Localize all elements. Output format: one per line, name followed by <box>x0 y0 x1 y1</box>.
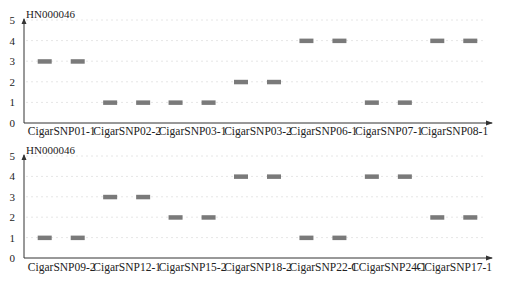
x-category-label: CCigarSNP24-1 <box>351 261 427 274</box>
data-bar <box>103 100 117 105</box>
data-bar <box>299 39 313 44</box>
data-bar <box>71 236 85 241</box>
chart-panel-top: 012345HN000046CigarSNP01-1CigarSNP02-2Ci… <box>0 0 508 140</box>
data-bar <box>430 215 444 220</box>
data-bar <box>169 215 183 220</box>
y-tick-label: 3 <box>10 55 16 67</box>
y-tick-label: 1 <box>10 232 16 244</box>
y-tick-label: 2 <box>10 76 16 88</box>
data-bar <box>38 236 52 241</box>
data-bar <box>398 174 412 179</box>
data-bar <box>365 100 379 105</box>
y-tick-label: 5 <box>10 150 16 162</box>
data-bar <box>169 100 183 105</box>
data-bar <box>430 39 444 44</box>
data-bar <box>463 215 477 220</box>
chart-panel-bottom: 012345HN000046CigarSNP09-2CigarSNP12-1Ci… <box>0 135 508 286</box>
y-tick-label: 0 <box>10 252 16 264</box>
data-bar <box>202 215 216 220</box>
data-bar <box>234 174 248 179</box>
x-category-label: CigarSNP15-2 <box>159 261 227 274</box>
x-category-label: CigarSNP09-2 <box>28 261 96 274</box>
data-bar <box>398 100 412 105</box>
data-bar <box>299 236 313 241</box>
x-category-label: CigarSNP18-2 <box>224 261 292 274</box>
data-bar <box>332 236 346 241</box>
data-bar <box>136 100 150 105</box>
data-bar <box>365 174 379 179</box>
x-category-label: CigarSNP12-1 <box>93 261 161 274</box>
data-bar <box>136 195 150 200</box>
chart-title: HN000046 <box>26 144 75 156</box>
data-bar <box>332 39 346 44</box>
data-bar <box>267 80 281 85</box>
data-bar <box>234 80 248 85</box>
y-tick-label: 4 <box>10 170 16 182</box>
y-tick-label: 1 <box>10 96 16 108</box>
data-bar <box>71 59 85 64</box>
y-tick-label: 4 <box>10 35 16 47</box>
data-bar <box>103 195 117 200</box>
chart-bottom: 012345HN000046CigarSNP09-2CigarSNP12-1Ci… <box>0 135 508 286</box>
y-tick-label: 0 <box>10 117 16 129</box>
y-tick-label: 3 <box>10 191 16 203</box>
data-bar <box>202 100 216 105</box>
data-bar <box>267 174 281 179</box>
x-category-label: CCigarSNP17-1 <box>417 261 493 274</box>
chart-title: HN000046 <box>26 8 75 20</box>
data-bar <box>463 39 477 44</box>
y-tick-label: 2 <box>10 211 16 223</box>
y-tick-label: 5 <box>10 14 16 26</box>
x-category-label: CigarSNP22-1 <box>290 261 358 274</box>
data-bar <box>38 59 52 64</box>
x-axis-arrow-icon <box>486 256 493 261</box>
chart-top: 012345HN000046CigarSNP01-1CigarSNP02-2Ci… <box>0 0 508 140</box>
